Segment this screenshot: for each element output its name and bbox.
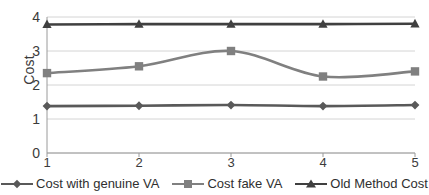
legend-label: Cost fake VA (207, 176, 282, 191)
y-tick-label: 1 (14, 112, 40, 126)
x-tick-label: 2 (124, 156, 154, 169)
x-tick-label: 5 (400, 156, 429, 169)
legend-item-fake-va[interactable]: Cost fake VA (172, 176, 282, 191)
legend-item-old-method[interactable]: Old Method Cost (295, 176, 428, 191)
y-tick-label: 2 (14, 78, 40, 92)
line-chart: Cost 4 3 2 1 0 1 2 3 4 5 Cost with genui… (0, 0, 429, 195)
legend-item-genuine-va[interactable]: Cost with genuine VA (1, 176, 159, 191)
y-tick-label: 4 (14, 10, 40, 24)
legend-label: Cost with genuine VA (36, 176, 159, 191)
x-tick-label: 3 (216, 156, 246, 169)
legend-label: Old Method Cost (330, 176, 428, 191)
y-tick-label: 3 (14, 44, 40, 58)
square-marker-icon (172, 178, 204, 190)
triangle-marker-icon (295, 178, 327, 190)
plot-area (0, 0, 429, 195)
diamond-marker-icon (1, 178, 33, 190)
x-tick-label: 4 (308, 156, 338, 169)
chart-legend: Cost with genuine VA Cost fake VA Old Me… (0, 176, 429, 191)
x-tick-label: 1 (32, 156, 62, 169)
